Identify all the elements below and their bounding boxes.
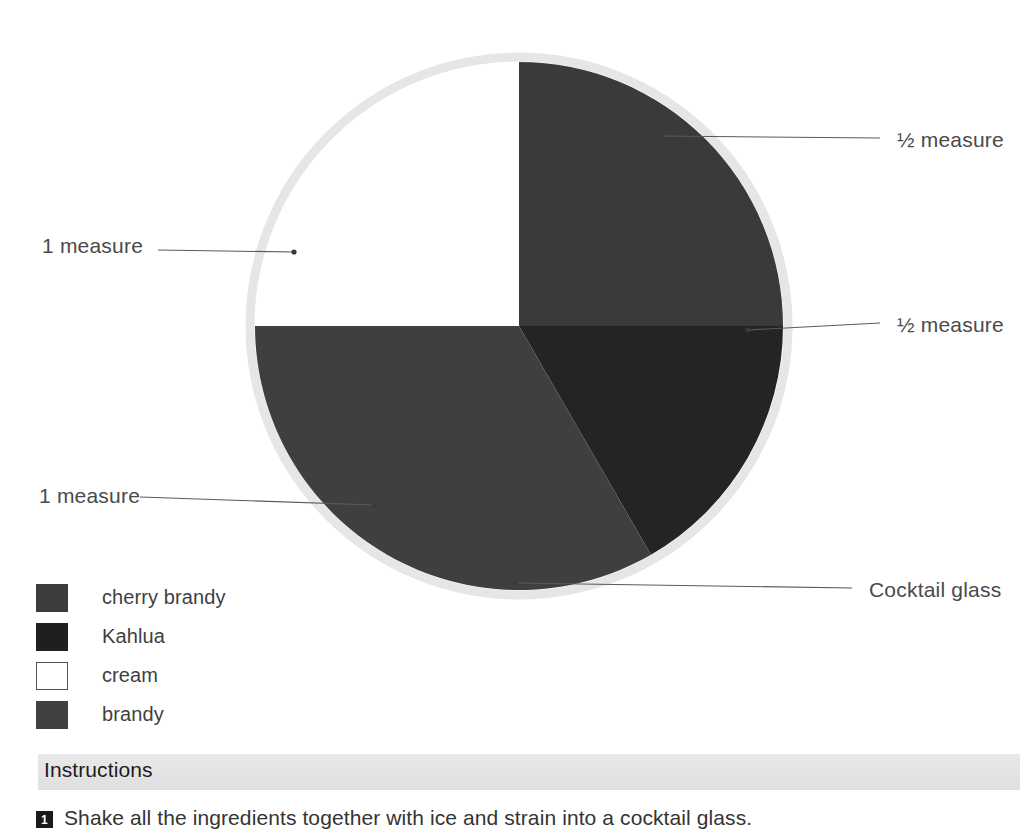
pie-slice-cherry-brandy[interactable] bbox=[519, 62, 783, 326]
legend-swatch-icon bbox=[36, 584, 68, 612]
instruction-step-1: 1 Shake all the ingredients together wit… bbox=[36, 806, 752, 830]
callout-label-cherry-brandy: ½ measure bbox=[897, 128, 1004, 152]
callout-label-brandy: 1 measure bbox=[39, 484, 140, 508]
recipe-diagram-page: ½ measure ½ measure Cocktail glass 1 mea… bbox=[0, 0, 1027, 837]
legend-item[interactable]: Kahlua bbox=[36, 617, 336, 656]
legend-item[interactable]: cherry brandy bbox=[36, 578, 336, 617]
step-text: Shake all the ingredients together with … bbox=[64, 806, 752, 830]
callout-label-kahlua: ½ measure bbox=[897, 313, 1004, 337]
legend-item[interactable]: brandy bbox=[36, 695, 336, 734]
legend-item-label: cream bbox=[102, 664, 158, 687]
legend-item[interactable]: cream bbox=[36, 656, 336, 695]
legend-item-label: brandy bbox=[102, 703, 164, 726]
legend-swatch-icon bbox=[36, 701, 68, 729]
pie-slice-cream[interactable] bbox=[255, 62, 519, 326]
instructions-heading: Instructions bbox=[44, 758, 153, 782]
callout-label-cream: 1 measure bbox=[42, 234, 143, 258]
chart-legend: cherry brandyKahluacreambrandy bbox=[36, 578, 336, 734]
legend-item-label: Kahlua bbox=[102, 625, 165, 648]
step-number-badge: 1 bbox=[36, 811, 53, 828]
legend-swatch-icon bbox=[36, 662, 68, 690]
legend-swatch-icon bbox=[36, 623, 68, 651]
instructions-band bbox=[38, 754, 1020, 790]
legend-item-label: cherry brandy bbox=[102, 586, 226, 609]
callout-label-cocktail-glass: Cocktail glass bbox=[869, 578, 1001, 602]
